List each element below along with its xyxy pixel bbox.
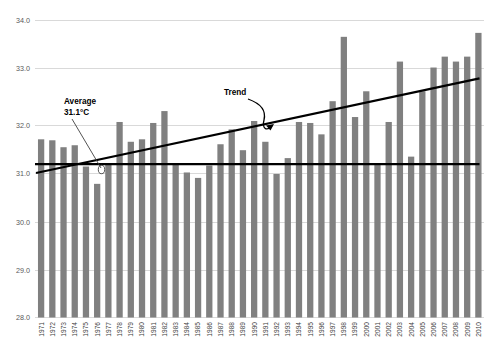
xtick-label: 2010 [475,322,482,337]
bar [419,91,425,317]
bar [72,145,78,317]
xtick-label: 2009 [464,322,471,337]
bar [217,144,223,317]
xtick-label: 2005 [419,322,426,337]
xtick-label: 1995 [307,322,314,337]
xtick-label: 1992 [273,322,280,337]
bar [442,57,448,318]
ytick-label: 34.0 [16,16,30,25]
xtick-label: 2008 [452,322,459,337]
xtick-label: 1997 [329,322,336,337]
xtick-label: 1989 [239,322,246,337]
xtick-label: 1998 [340,322,347,337]
xtick-label: 2001 [374,322,381,337]
gridlines-group [35,21,484,318]
bar [60,147,66,317]
bar [430,68,436,318]
bar [38,139,44,317]
bar [94,184,100,318]
xtick-label: 1979 [127,322,134,337]
bar [105,163,111,317]
bar [173,163,179,317]
bar [352,117,358,317]
xtick-label: 1980 [138,322,145,337]
bar [285,158,291,317]
xtick-label: 1991 [262,322,269,337]
bar [273,174,279,318]
ytick-label: 33.0 [16,64,30,73]
xtick-label: 1977 [105,322,112,337]
xtick-label: 2000 [363,322,370,337]
bar [128,142,134,318]
y-axis-tick-labels: 34.0 33.0 32.0 31.0 30.0 29.0 28.0 [16,16,30,322]
xtick-label: 2002 [385,322,392,337]
xtick-label: 1983 [172,322,179,337]
bar [307,123,313,318]
ytick-label: 29.0 [16,266,30,275]
bar [139,139,145,317]
bar [83,167,89,318]
bar [296,122,302,318]
average-annotation-line2: 31.1°C [64,108,89,117]
bar [229,129,235,317]
xtick-label: 2004 [408,322,415,337]
xtick-label: 1996 [318,322,325,337]
bar [150,123,156,318]
bar [195,178,201,318]
xtick-label: 1990 [251,322,258,337]
bar [453,62,459,318]
xtick-label: 1984 [183,322,190,337]
xtick-label: 1982 [161,322,168,337]
xtick-label: 1973 [60,322,67,337]
bar [386,122,392,318]
xtick-label: 1986 [206,322,213,337]
trend-annotation-label: Trend [224,88,246,97]
bar [116,122,122,318]
xtick-label: 1971 [38,322,45,337]
bar [464,57,470,318]
ytick-label: 28.0 [16,313,30,322]
bar [161,111,167,317]
bar [240,150,246,317]
xtick-label: 1972 [49,322,56,337]
xtick-label: 1975 [82,322,89,337]
bar [251,121,257,318]
bar [318,134,324,317]
xtick-label: 1999 [351,322,358,337]
chart-canvas: 34.0 33.0 32.0 31.0 30.0 29.0 28.0 Avera… [0,0,490,357]
ytick-label: 31.0 [16,169,30,178]
x-axis-tick-labels: 1971197219731974197519761977197819791980… [38,322,482,337]
bar [329,101,335,317]
xtick-label: 1981 [150,322,157,337]
bar [374,165,380,317]
bar [408,157,414,318]
bar [49,140,55,317]
xtick-label: 2003 [396,322,403,337]
bar [262,142,268,318]
average-annotation-line1: Average [64,97,96,106]
xtick-label: 1994 [295,322,302,337]
xtick-label: 1974 [71,322,78,337]
xtick-label: 1985 [194,322,201,337]
bar [475,33,481,318]
bar [341,37,347,318]
xtick-label: 2007 [441,322,448,337]
xtick-label: 1978 [116,322,123,337]
xtick-label: 1987 [217,322,224,337]
xtick-label: 1976 [94,322,101,337]
xtick-label: 1993 [284,322,291,337]
bar [363,91,369,317]
ytick-label: 30.0 [16,218,30,227]
average-leader-endpoint [98,165,104,173]
temperature-bar-chart: 34.0 33.0 32.0 31.0 30.0 29.0 28.0 Avera… [0,0,490,357]
xtick-label: 2006 [430,322,437,337]
xtick-label: 1988 [228,322,235,337]
ytick-label: 32.0 [16,121,30,130]
bar [206,166,212,318]
bar [184,172,190,317]
bars-group [38,33,482,318]
bar [397,62,403,318]
